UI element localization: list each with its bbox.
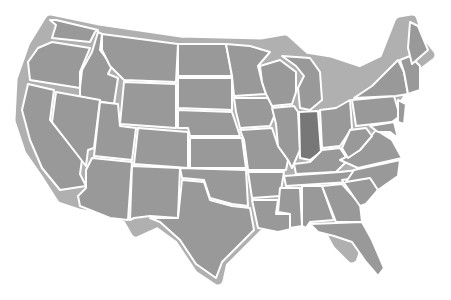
state-south-dakota[interactable] [178, 78, 232, 110]
us-map [0, 0, 451, 300]
state-kansas[interactable] [190, 138, 246, 168]
state-wyoming[interactable] [120, 82, 176, 128]
state-colorado[interactable] [134, 128, 188, 168]
state-north-dakota[interactable] [178, 44, 232, 76]
state-washington[interactable] [50, 20, 98, 42]
state-new-mexico[interactable] [130, 166, 180, 220]
state-indiana[interactable] [299, 111, 321, 160]
state-new-jersey[interactable] [398, 100, 406, 124]
